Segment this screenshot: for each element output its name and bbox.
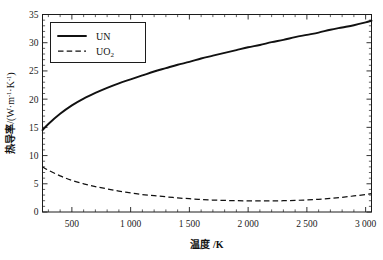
y-tick-label: 0 [34,207,39,217]
svg-text:热导率/(W·m-1·K-1): 热导率/(W·m-1·K-1) [4,72,17,153]
series-line-uo2 [43,167,372,201]
x-tick-label: 1 000 [120,219,142,229]
y-tick-label: 15 [29,123,39,133]
y-axis-tick-labels: 05101520253035 [29,10,39,218]
legend-label-un: UN [96,31,110,42]
y-axis-title-unit-close: ) [5,72,17,75]
y-tick-label: 5 [34,179,39,189]
y-axis-title-main: 热导率 [4,124,16,154]
y-tick-label: 30 [29,38,39,48]
x-tick-label: 3 000 [355,219,377,229]
y-tick-label: 35 [29,10,39,20]
x-axis-title: 温度 /K [190,238,223,250]
y-tick-label: 20 [29,95,39,105]
y-axis-title: 热导率/(W·m-1·K-1) [4,72,17,153]
legend-label-uo2-subscript: 2 [110,51,114,59]
x-tick-label: 2 000 [237,219,259,229]
chart-figure: 5001 0001 5002 0002 5003 000 05101520253… [0,0,383,260]
x-tick-label: 1 500 [179,219,201,229]
x-tick-label: 2 500 [296,219,318,229]
y-tick-label: 10 [29,151,39,161]
x-tick-label: 500 [65,219,80,229]
x-axis-tick-labels: 5001 0001 5002 0002 5003 000 [65,219,377,229]
legend: UN UO2 [51,23,146,63]
legend-box [51,23,146,63]
line-chart: 5001 0001 5002 0002 5003 000 05101520253… [0,0,383,260]
y-axis-title-unit-open: /(W·m [5,97,17,124]
y-tick-label: 25 [29,66,39,76]
legend-label-uo2-text: UO [96,46,110,57]
